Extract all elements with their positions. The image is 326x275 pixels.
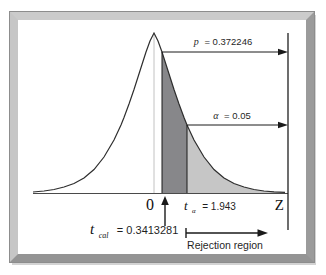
rejection-region-arrow [186,228,268,238]
p-value-label: p = 0.372246 [193,36,252,47]
figure-page: p = 0.372246 α = 0.05 0 Z t α = 1.943 [0,0,326,275]
zero-label: 0 [146,196,154,213]
p-value-arrow [162,49,288,55]
alpha-arrow [187,122,288,128]
t-cal-label: t cal = 0.3413281 [90,220,178,241]
arrow-right-icon [278,122,288,128]
alpha-label: α = 0.05 [213,110,251,121]
arrow-right-icon [258,229,269,236]
distribution-figure: p = 0.372246 α = 0.05 0 Z t α = 1.943 [18,20,306,254]
z-label: Z [275,197,284,213]
alpha-region [187,125,285,193]
t-cal-arrow [161,196,169,226]
arrow-right-icon [278,49,288,55]
rejection-region-label: Rejection region [187,239,263,251]
arrow-up-icon [161,196,169,205]
t-alpha-label: t α = 1.943 [184,196,236,216]
figure-frame: p = 0.372246 α = 0.05 0 Z t α = 1.943 [10,12,314,262]
p-value-region [162,52,187,193]
